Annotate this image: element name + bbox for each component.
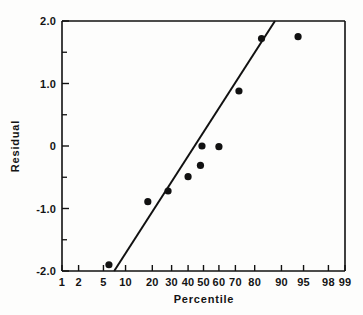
data-point xyxy=(198,142,205,149)
x-tick-label: 95 xyxy=(297,276,310,288)
data-point xyxy=(144,198,151,205)
x-tick-label: 40 xyxy=(182,276,195,288)
x-tick-label: 20 xyxy=(146,276,159,288)
x-tick-label: 2 xyxy=(75,276,81,288)
x-tick-label: 10 xyxy=(119,276,132,288)
chart-canvas: 125102030405060708090959899 2.01.00-1.0-… xyxy=(0,0,363,315)
data-point xyxy=(235,87,242,94)
x-axis-title: Percentile xyxy=(174,293,235,305)
fit-line xyxy=(114,21,275,271)
reference-fit-line xyxy=(114,21,275,271)
x-tick-label: 30 xyxy=(165,276,178,288)
x-tick-label: 1 xyxy=(59,276,65,288)
residual-probability-plot: 125102030405060708090959899 2.01.00-1.0-… xyxy=(0,0,363,315)
data-point xyxy=(294,33,301,40)
data-point xyxy=(105,261,112,268)
y-axis-title: Residual xyxy=(9,120,21,172)
x-tick-label: 5 xyxy=(100,276,106,288)
data-points xyxy=(105,33,301,268)
y-axis-tick-labels: 2.01.00-1.0-2.0 xyxy=(36,15,56,277)
y-tick-label: -2.0 xyxy=(36,265,56,277)
x-axis-ticks xyxy=(62,265,345,271)
data-point xyxy=(184,173,191,180)
x-tick-label: 99 xyxy=(339,276,352,288)
y-tick-label: 0 xyxy=(50,140,56,152)
x-tick-label: 90 xyxy=(275,276,288,288)
x-tick-label: 80 xyxy=(248,276,261,288)
x-tick-label: 98 xyxy=(322,276,335,288)
x-tick-label: 60 xyxy=(213,276,226,288)
y-tick-label: -1.0 xyxy=(36,203,56,215)
data-point xyxy=(215,143,222,150)
x-axis-tick-labels: 125102030405060708090959899 xyxy=(59,276,351,288)
y-axis-ticks xyxy=(62,21,69,271)
data-point xyxy=(164,187,171,194)
x-tick-label: 70 xyxy=(229,276,242,288)
data-point xyxy=(197,162,204,169)
x-tick-label: 50 xyxy=(197,276,210,288)
data-point xyxy=(258,35,265,42)
y-tick-label: 1.0 xyxy=(40,78,56,90)
y-tick-label: 2.0 xyxy=(40,15,56,27)
